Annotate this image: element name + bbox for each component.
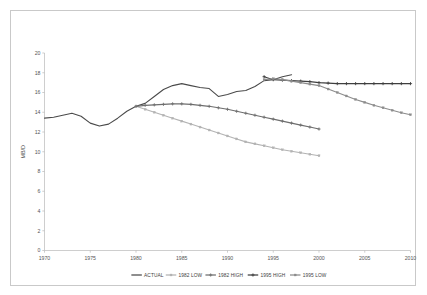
- series-marker-1995-low: [336, 92, 338, 94]
- y-tick-label: 4: [38, 208, 41, 214]
- y-tick-label: 2: [38, 228, 41, 234]
- series-line-actual: [45, 75, 292, 126]
- series-marker-1982-low: [181, 120, 183, 122]
- x-tick-label: 1985: [176, 255, 188, 261]
- series-marker-1982-low: [199, 126, 201, 128]
- legend-swatch-marker-4: [294, 274, 296, 276]
- y-tick-label: 16: [35, 89, 41, 95]
- series-marker-1995-low: [364, 101, 366, 103]
- y-tick-label: 12: [35, 129, 41, 135]
- series-marker-1995-low: [410, 114, 412, 116]
- series-marker-1995-low: [400, 112, 402, 114]
- legend-label-1982-high: 1982 HIGH: [218, 273, 243, 278]
- x-tick-label: 2010: [405, 255, 417, 261]
- series-marker-1982-low: [245, 141, 247, 143]
- series-marker-1995-low: [373, 104, 375, 106]
- series-marker-1982-low: [217, 132, 219, 134]
- series-marker-1982-low: [318, 155, 320, 157]
- series-marker-1982-low: [272, 147, 274, 149]
- legend-label-1995-low: 1995 LOW: [303, 273, 327, 278]
- series-marker-1995-low: [391, 109, 393, 111]
- legend-label-actual: ACTUAL: [144, 273, 164, 278]
- series-marker-1982-low: [236, 138, 238, 140]
- series-marker-1995-low: [345, 95, 347, 97]
- series-marker-1982-low: [309, 153, 311, 155]
- series-marker-1982-low: [263, 145, 265, 147]
- y-tick-label: 8: [38, 168, 41, 174]
- series-marker-1995-low: [281, 79, 283, 81]
- series-marker-1995-low: [300, 82, 302, 84]
- legend-label-1995-high: 1995 HIGH: [260, 273, 285, 278]
- series-line-1982-low: [136, 106, 319, 155]
- series-marker-1995-low: [309, 83, 311, 85]
- series-marker-1995-low: [291, 80, 293, 82]
- x-tick-label: 1975: [84, 255, 96, 261]
- y-tick-label: 18: [35, 70, 41, 76]
- series-marker-1982-low: [190, 123, 192, 125]
- x-tick-label: 2005: [359, 255, 371, 261]
- legend-label-1982-low: 1982 LOW: [178, 273, 202, 278]
- series-marker-1982-low: [291, 150, 293, 152]
- chart-figure: 0246810121416182019701975198019851990199…: [0, 0, 427, 295]
- x-tick-label: 1980: [130, 255, 142, 261]
- y-tick-label: 14: [35, 109, 41, 115]
- series-marker-1982-low: [227, 135, 229, 137]
- y-tick-label: 0: [38, 247, 41, 253]
- series-marker-1982-low: [281, 149, 283, 151]
- y-tick-label: 6: [38, 188, 41, 194]
- x-tick-label: 2000: [313, 255, 325, 261]
- x-tick-label: 1990: [222, 255, 234, 261]
- series-line-1982-high: [136, 104, 319, 129]
- series-marker-1995-low: [272, 78, 274, 80]
- line-chart: 0246810121416182019701975198019851990199…: [0, 0, 427, 295]
- y-tick-label: 20: [35, 50, 41, 56]
- y-axis-title: MB/D: [20, 145, 26, 159]
- x-tick-label: 1970: [39, 255, 51, 261]
- legend-swatch-marker-1: [170, 274, 172, 276]
- series-marker-1995-low: [263, 79, 265, 81]
- series-marker-1995-low: [327, 88, 329, 90]
- series-marker-1995-low: [355, 98, 357, 100]
- plot-container: 0246810121416182019701975198019851990199…: [0, 0, 427, 295]
- series-marker-1982-low: [254, 143, 256, 145]
- series-marker-1995-low: [318, 85, 320, 87]
- x-tick-label: 1995: [267, 255, 279, 261]
- series-marker-1982-low: [300, 152, 302, 154]
- series-marker-1982-low: [208, 129, 210, 131]
- series-marker-1982-low: [162, 114, 164, 116]
- series-marker-1995-low: [382, 107, 384, 109]
- series-marker-1982-low: [153, 111, 155, 113]
- y-tick-label: 10: [35, 149, 41, 155]
- series-marker-1982-low: [144, 108, 146, 110]
- series-marker-1982-low: [172, 117, 174, 119]
